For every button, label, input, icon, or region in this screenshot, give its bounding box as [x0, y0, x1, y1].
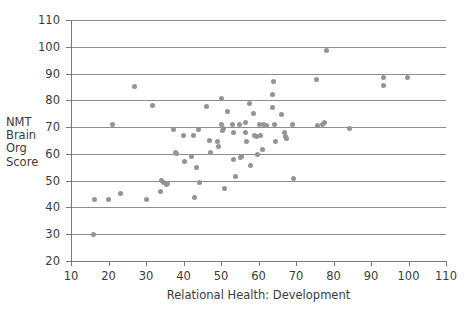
- x-axis-tick-label: 100: [394, 270, 424, 282]
- x-axis-tick-label: 80: [319, 270, 349, 282]
- x-axis-tick-label: 60: [244, 270, 274, 282]
- y-axis-title-line: Org: [6, 142, 52, 155]
- x-axis-tick-label: 30: [131, 270, 161, 282]
- y-axis-tick-label: 40: [34, 201, 60, 213]
- y-axis-tick-label: 110: [34, 14, 60, 26]
- tick-layer: 2030405060708090100110102030405060708090…: [0, 0, 473, 315]
- x-axis-title: Relational Health: Development: [71, 288, 446, 302]
- x-axis-tick-label: 10: [56, 270, 86, 282]
- y-axis-tick-label: 50: [34, 175, 60, 187]
- scatter-chart: 2030405060708090100110102030405060708090…: [0, 0, 473, 315]
- y-axis-tick-label: 20: [34, 255, 60, 267]
- x-axis-tick-label: 50: [206, 270, 236, 282]
- y-axis-tick-label: 90: [34, 68, 60, 80]
- x-axis-tick-label: 20: [94, 270, 124, 282]
- y-axis-title: NMTBrainOrgScore: [6, 116, 52, 169]
- y-axis-tick-label: 80: [34, 94, 60, 106]
- x-axis-tick-label: 70: [281, 270, 311, 282]
- y-axis-tick-label: 100: [34, 41, 60, 53]
- y-axis-tick-label: 30: [34, 228, 60, 240]
- y-axis-title-line: Score: [6, 156, 52, 169]
- x-axis-tick-label: 110: [431, 270, 461, 282]
- x-axis-tick-label: 40: [169, 270, 199, 282]
- x-axis-tick-label: 90: [356, 270, 386, 282]
